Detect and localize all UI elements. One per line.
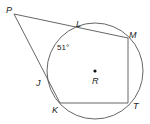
geometry-diagram: P L M J K T R 51° [0, 0, 150, 124]
label-T: T [133, 101, 140, 111]
label-J: J [35, 78, 41, 88]
label-R: R [92, 76, 99, 86]
secant-PK [14, 14, 60, 103]
label-K: K [52, 105, 59, 115]
label-P: P [6, 5, 12, 15]
center-dot [93, 69, 96, 72]
label-M: M [129, 30, 137, 40]
label-L: L [76, 19, 81, 29]
angle-label: 51° [57, 43, 69, 52]
